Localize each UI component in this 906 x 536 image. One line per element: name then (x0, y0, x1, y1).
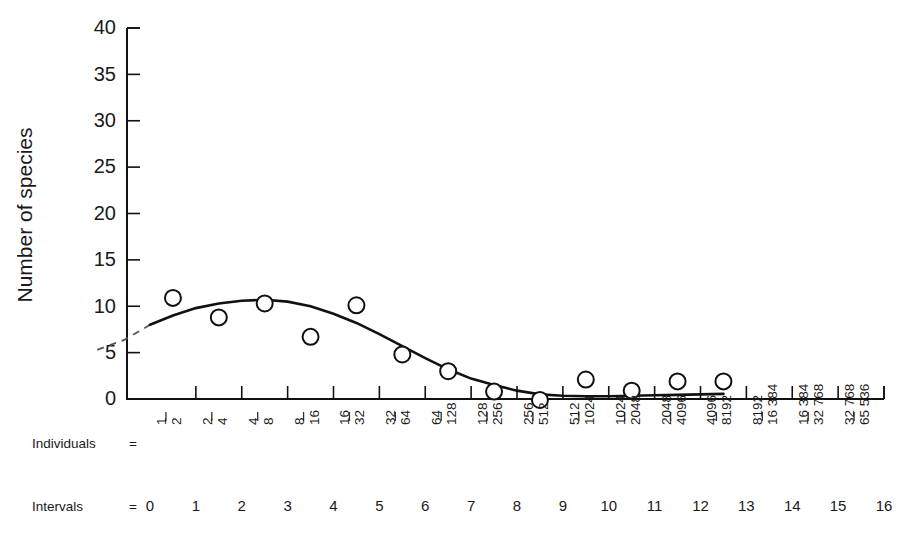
individuals-lower-label: 32 768 (811, 384, 826, 425)
individuals-lower-label: 16 (307, 410, 322, 425)
individuals-upper-label: 128 (475, 402, 490, 425)
individuals-upper-label: 16 384 (796, 383, 811, 425)
individuals-lower-label: 8192 (719, 395, 734, 425)
interval-tick-label: 7 (467, 497, 475, 514)
chart-figure: Number of species 0510152025303540 Indiv… (0, 0, 906, 536)
interval-tick-label: 8 (513, 497, 521, 514)
data-point (578, 372, 594, 388)
interval-tick-label: 16 (876, 497, 893, 514)
y-tick-label: 20 (94, 202, 116, 224)
individuals-upper-label: 64 (429, 409, 444, 425)
data-point (348, 297, 364, 313)
individuals-equals-sign: = (129, 436, 137, 451)
interval-tick-label: 1 (192, 497, 200, 514)
individuals-upper-label: 1024 (613, 394, 628, 425)
y-tick-label: 25 (94, 155, 116, 177)
interval-tick-label: 4 (329, 497, 337, 514)
individuals-upper-label: 8192 (750, 395, 765, 425)
individuals-upper-label: 1 (154, 417, 169, 425)
data-point (486, 384, 502, 400)
y-tick-label: 15 (94, 248, 116, 270)
interval-tick-label: 12 (692, 497, 709, 514)
individuals-lower-label: 512 (536, 402, 551, 425)
individuals-upper-label: 4096 (704, 395, 719, 425)
interval-tick-label: 15 (830, 497, 847, 514)
individuals-upper-label: 32 768 (842, 384, 857, 425)
individuals-upper-label: 16 (337, 410, 352, 425)
data-point (670, 373, 686, 389)
data-point (440, 363, 456, 379)
y-tick-label: 35 (94, 63, 116, 85)
y-tick-label: 0 (105, 387, 116, 409)
interval-tick-label: 10 (600, 497, 617, 514)
data-point (165, 290, 181, 306)
intervals-equals-sign: = (129, 499, 137, 514)
interval-tick-label: 11 (647, 497, 663, 514)
interval-tick-label: 9 (559, 497, 567, 514)
individuals-lower-label: 2048 (628, 395, 643, 425)
interval-tick-label: 3 (283, 497, 291, 514)
individuals-upper-label: 256 (521, 402, 536, 425)
y-axis-title: Number of species (13, 127, 36, 302)
interval-tick-label: 6 (421, 497, 429, 514)
individuals-upper-label: 32 (383, 410, 398, 425)
individuals-lower-label: 256 (490, 402, 505, 425)
interval-tick-label: 14 (784, 497, 801, 514)
individuals-upper-label: 8 (292, 417, 307, 425)
interval-tick-label: 2 (238, 497, 246, 514)
individuals-upper-label: 2048 (659, 395, 674, 425)
interval-tick-label: 0 (146, 497, 154, 514)
intervals-row-label: Intervals (32, 499, 83, 514)
interval-tick-label: 13 (738, 497, 755, 514)
individuals-lower-label: 4096 (674, 395, 689, 425)
y-tick-label: 10 (94, 295, 116, 317)
data-point (257, 295, 273, 311)
data-point (211, 309, 227, 325)
y-tick-label: 40 (94, 16, 116, 38)
chart-background (0, 0, 906, 536)
lognormal-species-abundance-chart: Number of species 0510152025303540 Indiv… (0, 0, 906, 536)
individuals-lower-label: 32 (352, 410, 367, 425)
data-point (715, 373, 731, 389)
individuals-lower-label: 64 (398, 409, 413, 425)
data-point (394, 346, 410, 362)
individuals-lower-label: 8 (261, 417, 276, 425)
interval-tick-label: 5 (375, 497, 383, 514)
individuals-upper-label: 4 (246, 417, 261, 425)
individuals-row-label: Individuals (32, 436, 96, 451)
individuals-lower-label: 65 536 (857, 384, 872, 425)
individuals-lower-label: 128 (444, 402, 459, 425)
individuals-upper-label: 512 (567, 402, 582, 425)
individuals-lower-label: 4 (215, 417, 230, 425)
individuals-lower-label: 2 (169, 417, 184, 425)
individuals-lower-label: 16 384 (765, 383, 780, 425)
y-tick-label: 30 (94, 109, 116, 131)
individuals-upper-label: 2 (200, 417, 215, 425)
individuals-lower-label: 1024 (582, 394, 597, 425)
data-point (303, 329, 319, 345)
